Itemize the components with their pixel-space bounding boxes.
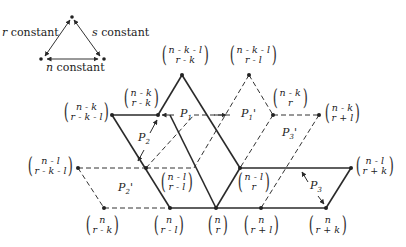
- binom-n-k-r-k-l: (n - kr - k - l): [62, 101, 111, 123]
- legend-n-constant: n constant: [46, 61, 105, 74]
- binom-n-k-r: (n - kr): [271, 87, 309, 109]
- label-p1: P1: [180, 107, 192, 122]
- legend-s-text: constant: [101, 26, 149, 39]
- label-p3-prime: P3': [282, 126, 297, 141]
- legend-s-symbol: s: [92, 26, 98, 39]
- binom-n-k-l-r-l: (n - k - lr - l): [228, 44, 279, 66]
- legend-r-constant: r constant: [2, 26, 59, 39]
- binom-n-k-r+l: (n - kr + l): [323, 102, 362, 124]
- binom-n-l-r+k: (n - lr + k): [354, 155, 396, 177]
- legend-n-symbol: n: [46, 61, 53, 74]
- binom-n-l-r: (n - lr): [236, 171, 272, 193]
- binom-n-r-k: (nr - k): [84, 214, 121, 236]
- label-p2: P2: [138, 131, 150, 146]
- legend-n-text: constant: [57, 61, 105, 74]
- label-p3: P3: [310, 179, 322, 194]
- legend-r-text: constant: [11, 26, 59, 39]
- legend-s-constant: s constant: [92, 26, 149, 39]
- binom-n-r+l: (nr + l): [242, 214, 281, 236]
- legend-r-symbol: r: [2, 26, 7, 39]
- binom-n-r: (nr): [206, 214, 229, 236]
- binom-n-l-r-l: (n - lr - l): [159, 171, 195, 193]
- binom-n-k-l-r-k: (n - k - lr - k): [160, 44, 211, 66]
- binom-n-k-r-k: (n - kr - k): [122, 87, 160, 109]
- label-p1-prime: P1': [241, 107, 256, 122]
- binom-n-l-r-k-l: (n - lr - k - l): [26, 155, 75, 177]
- label-p2-prime: P2': [118, 181, 133, 196]
- binom-n-r-l: (nr - l): [152, 214, 186, 236]
- binom-n-r+k: (nr + k): [307, 214, 349, 236]
